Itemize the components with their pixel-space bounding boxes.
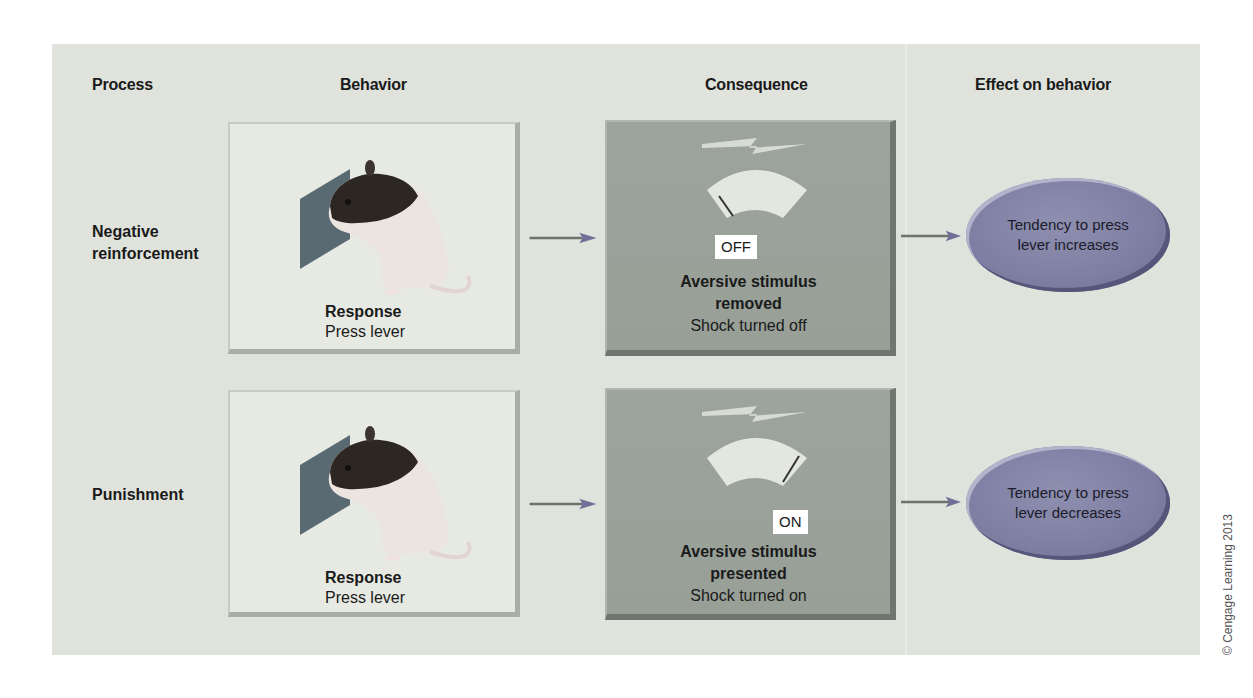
rat-pressing-lever-icon: [270, 410, 480, 570]
behavior-subtitle: Press lever: [325, 322, 405, 342]
consequence-title-line: Aversive stimulus: [607, 272, 890, 292]
header-consequence: Consequence: [705, 76, 808, 94]
header-process: Process: [92, 76, 153, 94]
consequence-title-line: presented: [607, 564, 890, 584]
process-label-negative-reinforcement: Negative reinforcement: [92, 221, 199, 265]
effect-oval-decreases: Tendency to press lever decreases: [966, 446, 1170, 560]
consequence-subtitle: Shock turned off: [607, 316, 890, 336]
behavior-title: Response: [325, 302, 401, 322]
right-arrow-icon: [524, 498, 602, 510]
state-off-tag: OFF: [715, 235, 757, 259]
consequence-box-row2: ON Aversive stimulus presented Shock tur…: [605, 388, 896, 620]
effect-line: lever increases: [993, 235, 1143, 255]
behavior-subtitle: Press lever: [325, 588, 405, 608]
consequence-box-row1: OFF Aversive stimulus removed Shock turn…: [605, 120, 896, 356]
right-arrow-icon: [524, 232, 602, 244]
consequence-title-line: Aversive stimulus: [607, 542, 890, 562]
effect-text: Tendency to press lever decreases: [993, 483, 1143, 523]
effect-line: Tendency to press: [993, 215, 1143, 235]
effect-line: lever decreases: [993, 503, 1143, 523]
consequence-title-line: removed: [607, 294, 890, 314]
shock-gauge-icon: [607, 122, 892, 252]
header-effect: Effect on behavior: [975, 76, 1111, 94]
behavior-box-row2: Response Press lever: [228, 390, 520, 617]
process-label-line: Negative: [92, 221, 199, 243]
right-arrow-icon: [896, 496, 966, 508]
effect-line: Tendency to press: [993, 483, 1143, 503]
behavior-box-row1: Response Press lever: [228, 122, 520, 354]
state-on-tag: ON: [773, 510, 808, 534]
right-arrow-icon: [896, 230, 966, 242]
consequence-subtitle: Shock turned on: [607, 586, 890, 606]
process-label-punishment: Punishment: [92, 484, 184, 506]
rat-pressing-lever-icon: [270, 144, 480, 304]
column-divider: [905, 44, 907, 655]
copyright-notice: © Cengage Learning 2013: [1221, 514, 1235, 655]
effect-text: Tendency to press lever increases: [993, 215, 1143, 255]
effect-oval-increases: Tendency to press lever increases: [966, 178, 1170, 292]
process-label-line: Punishment: [92, 484, 184, 506]
behavior-title: Response: [325, 568, 401, 588]
shock-gauge-icon: [607, 390, 892, 520]
lightning-bolt-icon: [702, 138, 807, 154]
header-behavior: Behavior: [340, 76, 407, 94]
lightning-bolt-icon: [702, 406, 807, 422]
process-label-line: reinforcement: [92, 243, 199, 265]
